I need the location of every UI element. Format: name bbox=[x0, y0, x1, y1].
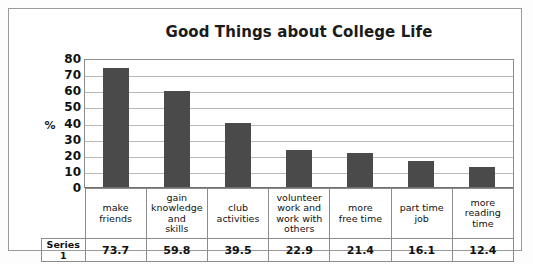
table-category-cell: morefree time bbox=[330, 189, 391, 239]
y-tick-label: 10 bbox=[59, 167, 81, 177]
bar[interactable] bbox=[469, 167, 495, 187]
table-row-categories: makefriendsgainknowledgeandskillsclubact… bbox=[42, 189, 514, 239]
table-value-cell: 12.4 bbox=[452, 239, 513, 262]
bar[interactable] bbox=[286, 150, 312, 187]
chart-title: Good Things about College Life bbox=[84, 23, 514, 41]
table-value-cell: 59.8 bbox=[146, 239, 207, 262]
y-tick-label: 60 bbox=[59, 86, 81, 96]
table-value-cell: 73.7 bbox=[85, 239, 146, 262]
y-tick-label: 70 bbox=[59, 70, 81, 80]
table-corner-cell bbox=[42, 189, 86, 239]
bar-slot bbox=[330, 60, 391, 187]
y-tick-label: 50 bbox=[59, 102, 81, 112]
table-category-cell: part timejob bbox=[391, 189, 452, 239]
data-table: makefriendsgainknowledgeandskillsclubact… bbox=[41, 188, 514, 262]
bar-slot bbox=[391, 60, 452, 187]
bar-series bbox=[85, 60, 513, 187]
y-axis-label: % bbox=[39, 119, 61, 132]
table-value-cell: 22.9 bbox=[269, 239, 330, 262]
y-tick-label: 80 bbox=[59, 54, 81, 64]
table-value-cell: 39.5 bbox=[207, 239, 268, 262]
y-tick-label: 20 bbox=[59, 151, 81, 161]
bar-slot bbox=[207, 60, 268, 187]
table-row-values: Series 173.759.839.522.921.416.112.4 bbox=[42, 239, 514, 262]
table-value-cell: 21.4 bbox=[330, 239, 391, 262]
bar-slot bbox=[85, 60, 146, 187]
chart-screenshot: Good Things about College Life % 8070605… bbox=[0, 0, 533, 264]
table-category-cell: makefriends bbox=[85, 189, 146, 239]
table-category-cell: volunteerwork andwork withothers bbox=[269, 189, 330, 239]
table-series-label: Series 1 bbox=[42, 239, 86, 262]
bar[interactable] bbox=[225, 123, 251, 187]
bar[interactable] bbox=[103, 68, 129, 187]
figure-frame: Good Things about College Life % 8070605… bbox=[8, 8, 522, 251]
table-value-cell: 16.1 bbox=[391, 239, 452, 262]
table-category-cell: gainknowledgeandskills bbox=[146, 189, 207, 239]
plot-area bbox=[84, 59, 514, 188]
table-category-cell: morereadingtime bbox=[452, 189, 513, 239]
table-category-cell: clubactivities bbox=[207, 189, 268, 239]
y-tick-label: 30 bbox=[59, 135, 81, 145]
bar[interactable] bbox=[408, 161, 434, 187]
bar-slot bbox=[146, 60, 207, 187]
y-axis-tick-labels: 80706050403020100 bbox=[59, 53, 81, 195]
bar-slot bbox=[268, 60, 329, 187]
bar[interactable] bbox=[347, 153, 373, 188]
bar[interactable] bbox=[164, 91, 190, 187]
y-tick-label: 40 bbox=[59, 119, 81, 129]
bar-slot bbox=[452, 60, 513, 187]
